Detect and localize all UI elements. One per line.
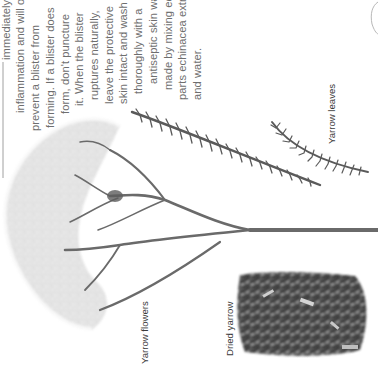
body-text-line: prevent a blister from — [29, 25, 41, 131]
body-text-line: parts echinacea extract — [176, 0, 188, 100]
body-text-line: immediately, this eases pain and — [0, 0, 12, 60]
dried-yarrow-image — [237, 272, 366, 356]
body-text-line: skin intact and wash — [117, 2, 129, 104]
body-text-line: inflammation and will often — [14, 0, 26, 113]
body-text-line: forming. If a blister does — [44, 7, 56, 128]
yarrow-illustration — [0, 0, 378, 367]
caption-dried-yarrow: Dried yarrow — [224, 302, 235, 356]
body-text-line: ruptures naturally, — [88, 10, 100, 100]
body-text-line: antiseptic skin wash — [147, 0, 159, 84]
body-text-line: it. When the blister — [73, 12, 85, 106]
body-text-line: thoroughly with a — [132, 9, 144, 94]
body-text-line: form, don't puncture — [59, 14, 71, 114]
caption-yarrow-leaves: Yarrow leaves — [326, 84, 337, 144]
body-text-line: and water. — [191, 48, 203, 100]
book-page: immediately, this eases pain and inflamm… — [0, 0, 378, 367]
body-text-line: leave the protective — [103, 6, 115, 104]
body-text-line: made by mixing equal — [162, 0, 174, 90]
caption-yarrow-flowers: Yarrow flowers — [139, 301, 150, 364]
circle-edge — [371, 2, 378, 34]
